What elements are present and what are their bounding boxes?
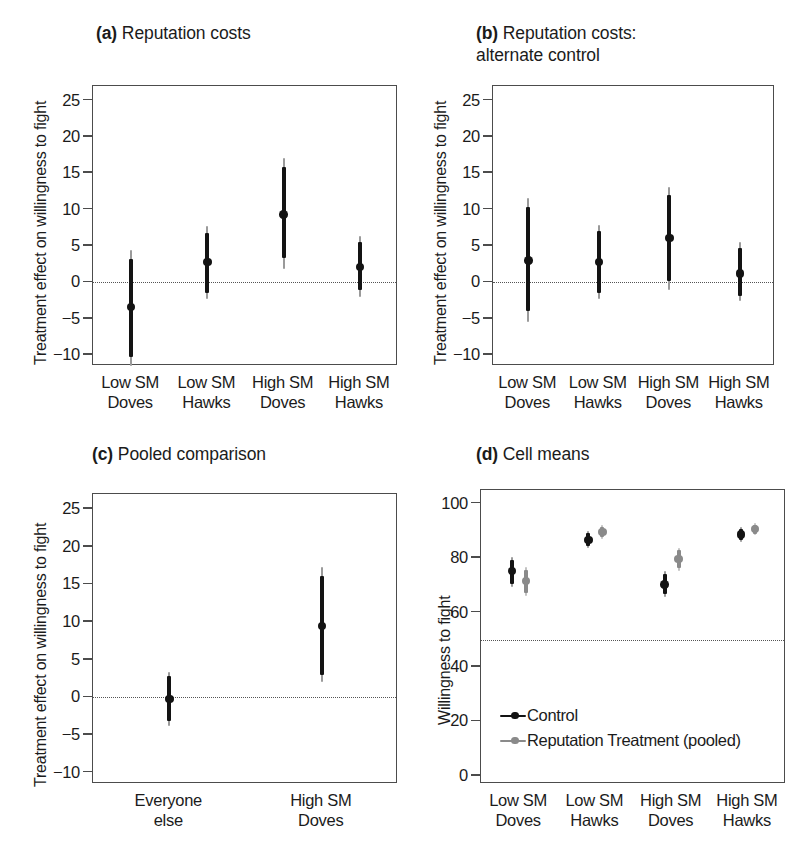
point-estimate-dot <box>665 234 674 243</box>
y-axis-tick-label: −5 <box>440 308 480 327</box>
y-axis-tick-label: 25 <box>40 499 80 518</box>
point-estimate-dot <box>584 536 593 545</box>
point-estimate-dot <box>318 622 327 631</box>
panel-d-legend: ControlReputation Treatment (pooled) <box>500 703 741 753</box>
y-axis-tick-label: 0 <box>428 765 468 784</box>
x-axis-tick-label: High SM Hawks <box>321 372 397 412</box>
y-axis-tick-label: 20 <box>40 126 80 145</box>
y-axis-tick-label: 5 <box>440 236 480 255</box>
y-axis-tick-label: −5 <box>40 308 80 327</box>
x-axis-tick-label: High SM Doves <box>245 790 398 830</box>
panel-d: (d) Cell means Willingness to fight Cont… <box>404 425 809 863</box>
x-axis-tick-label: Low SM Hawks <box>563 372 634 412</box>
y-axis-tick-label: 10 <box>40 199 80 218</box>
y-axis-tick <box>83 583 92 585</box>
legend-label: Control <box>527 706 578 725</box>
point-estimate-dot <box>524 256 533 265</box>
reference-line <box>93 697 396 698</box>
legend-item[interactable]: Reputation Treatment (pooled) <box>500 728 741 753</box>
y-axis-tick <box>83 208 92 210</box>
y-axis-tick-label: 25 <box>440 90 480 109</box>
y-axis-tick-label: 5 <box>40 236 80 255</box>
y-axis-tick <box>471 611 480 613</box>
point-estimate-dot <box>508 567 517 576</box>
reference-line <box>93 282 396 283</box>
y-axis-tick <box>83 771 92 773</box>
point-estimate-dot <box>522 577 531 586</box>
x-axis-tick-label: Low SM Doves <box>492 372 563 412</box>
y-axis-tick <box>83 658 92 660</box>
y-axis-tick-label: 60 <box>428 602 468 621</box>
y-axis-tick-label: 15 <box>40 163 80 182</box>
y-axis-tick <box>83 171 92 173</box>
y-axis-tick-label: −10 <box>40 762 80 781</box>
panel-c-marker: (c) <box>92 444 113 464</box>
x-axis-tick-label: High SM Hawks <box>704 372 775 412</box>
panel-b-title: (b) Reputation costs: alternate control <box>476 22 796 66</box>
y-axis-tick <box>83 281 92 283</box>
point-estimate-dot <box>279 210 288 219</box>
y-axis-tick <box>483 317 492 319</box>
y-axis-tick-label: 10 <box>40 612 80 631</box>
y-axis-tick <box>83 507 92 509</box>
y-axis-tick <box>83 99 92 101</box>
point-estimate-dot <box>736 269 745 278</box>
x-axis-tick-label: High SM Doves <box>633 372 704 412</box>
figure-root: (a) Reputation costs Treatment effect on… <box>0 0 809 863</box>
point-estimate-dot <box>356 263 365 272</box>
panel-c: (c) Pooled comparison Treatment effect o… <box>0 425 405 863</box>
point-estimate-dot <box>595 258 604 267</box>
panel-a: (a) Reputation costs Treatment effect on… <box>0 0 405 431</box>
panel-c-title-text: Pooled comparison <box>113 444 266 464</box>
panel-b: (b) Reputation costs: alternate control … <box>404 0 809 431</box>
y-axis-tick-label: 5 <box>40 649 80 668</box>
y-axis-tick <box>471 556 480 558</box>
y-axis-tick <box>83 696 92 698</box>
y-axis-tick-label: 20 <box>428 711 468 730</box>
point-estimate-dot <box>660 580 669 589</box>
y-axis-tick <box>83 545 92 547</box>
y-axis-tick <box>83 244 92 246</box>
y-axis-tick-label: 0 <box>440 272 480 291</box>
y-axis-tick <box>83 620 92 622</box>
point-estimate-dot <box>165 695 174 704</box>
y-axis-tick-label: −5 <box>40 725 80 744</box>
panel-a-title: (a) Reputation costs <box>96 22 396 44</box>
y-axis-tick-label: 40 <box>428 656 468 675</box>
panel-d-title-text: Cell means <box>498 444 589 464</box>
panel-a-plot-area <box>92 85 397 365</box>
x-axis-tick-label: Low SM Doves <box>480 790 556 830</box>
y-axis-tick <box>83 353 92 355</box>
panel-d-marker: (d) <box>476 444 498 464</box>
y-axis-tick <box>471 720 480 722</box>
y-axis-tick <box>83 135 92 137</box>
panel-b-title-text: Reputation costs: alternate control <box>476 23 636 65</box>
y-axis-tick-label: 0 <box>40 272 80 291</box>
point-estimate-dot <box>127 303 136 312</box>
y-axis-tick-label: 100 <box>428 493 468 512</box>
panel-d-title: (d) Cell means <box>476 443 776 465</box>
legend-swatch-icon <box>500 710 526 722</box>
y-axis-tick-label: 15 <box>440 163 480 182</box>
y-axis-tick <box>483 171 492 173</box>
y-axis-tick <box>471 774 480 776</box>
y-axis-tick <box>483 244 492 246</box>
panel-c-plot-area <box>92 493 397 783</box>
panel-b-plot-area <box>492 85 774 365</box>
y-axis-tick-label: 20 <box>40 536 80 555</box>
y-axis-tick <box>471 665 480 667</box>
point-estimate-dot <box>737 530 746 539</box>
x-axis-tick-label: High SM Doves <box>633 790 709 830</box>
y-axis-tick <box>483 281 492 283</box>
y-axis-tick-label: 0 <box>40 687 80 706</box>
point-estimate-dot <box>751 525 760 534</box>
panel-a-title-text: Reputation costs <box>117 23 251 43</box>
legend-item[interactable]: Control <box>500 703 741 728</box>
x-axis-tick-label: High SM Doves <box>245 372 321 412</box>
legend-swatch-icon <box>500 735 526 747</box>
y-axis-tick <box>483 99 492 101</box>
y-axis-tick-label: 25 <box>40 90 80 109</box>
y-axis-tick-label: 10 <box>440 199 480 218</box>
y-axis-tick-label: 20 <box>440 126 480 145</box>
panel-b-marker: (b) <box>476 23 498 43</box>
